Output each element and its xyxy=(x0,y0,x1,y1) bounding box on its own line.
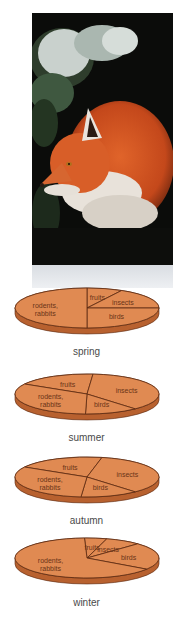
slice-label: insects xyxy=(116,387,138,394)
pie-summer: fruitsinsectsbirdsrodents,rabbits xyxy=(0,370,173,428)
season-label-autumn: autumn xyxy=(0,515,173,526)
slice-label: rodents,rabbits xyxy=(37,476,62,491)
slice-label: rodents,rabbits xyxy=(33,302,58,317)
slice-label: birds xyxy=(121,554,137,561)
fox-photo xyxy=(32,13,173,288)
slice-label: insects xyxy=(116,471,138,478)
slice-label: fruits xyxy=(60,381,76,388)
fox-photo-illustration xyxy=(32,13,173,288)
slice-label: rodents,rabbits xyxy=(38,557,63,572)
slice-label: birds xyxy=(109,313,125,320)
slice-label: insects xyxy=(97,546,119,553)
slice-label: birds xyxy=(93,484,109,491)
slice-label: birds xyxy=(94,401,110,408)
season-label-spring: spring xyxy=(0,346,173,357)
pie-spring: fruitsinsectsbirdsrodents,rabbits xyxy=(0,284,173,342)
slice-label: rodents,rabbits xyxy=(38,393,63,408)
pie-autumn: fruitsinsectsbirdsrodents,rabbits xyxy=(0,453,173,511)
slice-label: fruits xyxy=(90,294,106,301)
pie-winter: fruitsinsectsbirdsrodents,rabbits xyxy=(0,534,173,592)
slice-label: fruits xyxy=(62,464,78,471)
slice-label: insects xyxy=(112,299,134,306)
pie-winter-svg: fruitsinsectsbirdsrodents,rabbits xyxy=(0,534,173,592)
pie-summer-svg: fruitsinsectsbirdsrodents,rabbits xyxy=(0,370,173,428)
pie-spring-svg: fruitsinsectsbirdsrodents,rabbits xyxy=(0,284,173,342)
season-label-summer: summer xyxy=(0,432,173,443)
season-label-winter: winter xyxy=(0,597,173,608)
pie-autumn-svg: fruitsinsectsbirdsrodents,rabbits xyxy=(0,453,173,511)
